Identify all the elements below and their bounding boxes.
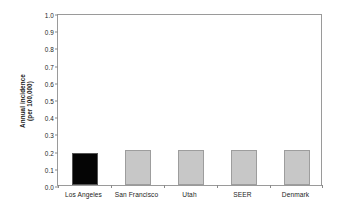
- x-axis-label: Los Angeles: [57, 191, 110, 198]
- x-tick-mark: [270, 185, 271, 188]
- y-tick-mark: [55, 66, 58, 67]
- x-tick-mark: [217, 185, 218, 188]
- x-axis-label: Utah: [163, 191, 216, 198]
- x-tick-mark: [164, 185, 165, 188]
- y-tick-mark: [55, 101, 58, 102]
- y-axis-title-line-2: (per 100,000): [26, 56, 33, 146]
- x-tick-mark: [111, 185, 112, 188]
- y-tick-mark: [55, 169, 58, 170]
- y-tick-mark: [55, 135, 58, 136]
- y-tick-mark: [55, 15, 58, 16]
- x-tick-mark: [58, 185, 59, 188]
- y-tick-mark: [55, 83, 58, 84]
- bar: [178, 150, 204, 185]
- x-tick-mark: [322, 185, 323, 188]
- bar: [231, 150, 257, 185]
- y-tick-mark: [55, 152, 58, 153]
- y-tick-mark: [55, 32, 58, 33]
- y-axis-title: Annual incidence (per 100,000): [19, 56, 33, 146]
- bar: [72, 153, 98, 185]
- y-axis-title-line-1: Annual incidence: [19, 56, 26, 146]
- x-axis-label: San Francisco: [110, 191, 163, 198]
- y-tick-mark: [55, 49, 58, 50]
- x-axis-label: SEER: [216, 191, 269, 198]
- bar: [284, 150, 310, 185]
- plot-area: 1.00.90.80.70.60.50.40.30.20.10.0: [57, 14, 322, 186]
- x-axis-label: Denmark: [269, 191, 322, 198]
- bar: [125, 150, 151, 185]
- bar-chart: Annual incidence (per 100,000) 1.00.90.8…: [0, 0, 346, 218]
- y-tick-mark: [55, 118, 58, 119]
